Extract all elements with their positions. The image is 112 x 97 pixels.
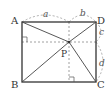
measure-a: a bbox=[43, 9, 48, 19]
right-angle-mark-bottom bbox=[69, 77, 74, 82]
geometry-diagram: A D B C P a b c d bbox=[0, 0, 112, 97]
right-angle-mark-left bbox=[22, 37, 27, 42]
segment-pb bbox=[22, 42, 69, 82]
segment-pd bbox=[69, 22, 96, 42]
label-b-vertex: B bbox=[11, 79, 18, 90]
measure-c: c bbox=[99, 27, 104, 37]
point-p bbox=[68, 41, 71, 44]
label-a-vertex: A bbox=[10, 15, 19, 26]
label-c-vertex: C bbox=[97, 79, 105, 90]
label-p: P bbox=[61, 49, 67, 59]
measure-b: b bbox=[80, 8, 86, 18]
segment-pc bbox=[69, 42, 96, 82]
segment-pa bbox=[22, 22, 69, 42]
label-d-vertex: D bbox=[97, 15, 105, 26]
measure-d: d bbox=[99, 58, 105, 68]
